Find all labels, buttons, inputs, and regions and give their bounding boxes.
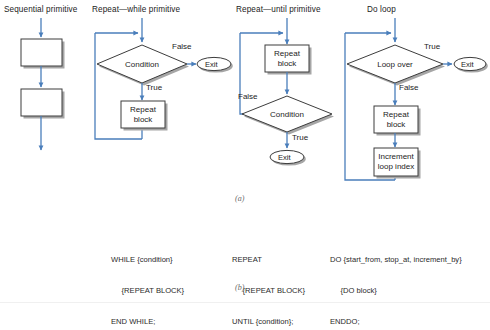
code-line: DO {start_from, stop_at, increment_by} [330, 255, 462, 265]
code-line: UNTIL {condition}; [232, 317, 305, 327]
code-line: WHILE {condition} [111, 255, 184, 265]
code-line: REPEAT [232, 255, 305, 265]
part-a-caption: (a) [235, 194, 244, 203]
process-box-2-shape [21, 89, 62, 116]
pseudocode-do: DO {start_from, stop_at, increment_by} {… [330, 234, 462, 330]
column-title-sequential: Sequential primitive [4, 5, 77, 14]
repeat-block-label-repeat-while: Repeatblock [121, 105, 165, 124]
part-b-caption: (b) [235, 283, 244, 292]
code-line: END WHILE; [111, 317, 184, 327]
code-line: ENDDO; [330, 317, 462, 327]
repeat-block-label-do-loop: Repeatblock [374, 110, 418, 129]
condition-diamond-label: Condition [117, 60, 167, 70]
false-label-repeat-while: False [172, 42, 192, 51]
exit-terminal-label-do-loop: Exit [461, 60, 474, 69]
sequential-column-graphics [21, 18, 65, 150]
column-title-repeat-while: Repeat—while primitive [92, 5, 180, 14]
increment-block-label: Incrementloop index [372, 152, 420, 171]
loop-over-diamond-label: Loop over [368, 60, 422, 70]
true-label-repeat-while: True [146, 83, 162, 92]
pseudocode-while: WHILE {condition} {REPEAT BLOCK} END WHI… [111, 234, 184, 330]
exit-terminal-label-repeat-until: Exit [278, 153, 291, 162]
false-label-do-loop: False [399, 83, 419, 92]
exit-terminal-label-repeat-while: Exit [205, 60, 218, 69]
code-line: {REPEAT BLOCK} [111, 286, 184, 296]
process-box-1-shape [21, 39, 62, 66]
code-line: {DO block} [330, 286, 462, 296]
repeat-block-label-repeat-until: Repeatblock [265, 49, 309, 68]
column-title-repeat-until: Repeat—until primitive [236, 5, 321, 14]
pseudocode-repeat: REPEAT {REPEAT BLOCK} UNTIL {condition}; [232, 234, 305, 330]
column-title-do-loop: Do loop [367, 5, 396, 14]
footer-divider [0, 302, 490, 303]
true-label-do-loop: True [424, 42, 440, 51]
true-label-repeat-until: True [292, 133, 308, 142]
condition-diamond-label-repeat-until: Condition [262, 110, 312, 120]
false-label-repeat-until: False [238, 92, 258, 101]
